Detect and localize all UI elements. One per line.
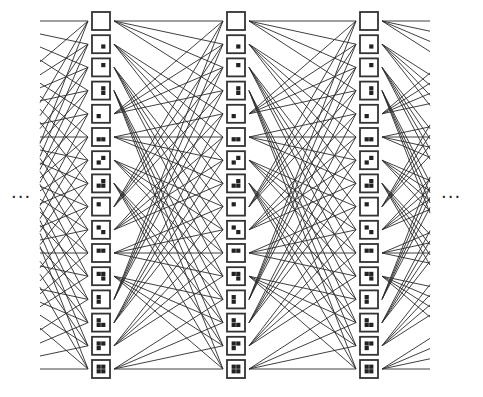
cell-top-right: [101, 156, 105, 160]
state-box-3: [227, 82, 245, 100]
state-box-frame: [360, 151, 378, 169]
state-box-frame: [360, 105, 378, 123]
cell-top-right: [236, 365, 240, 369]
transition-edge: [249, 114, 356, 323]
cell-bottom-right: [369, 276, 373, 280]
state-box-7: [227, 174, 245, 192]
state-box-10: [360, 244, 378, 262]
state-box-frame: [360, 221, 378, 239]
cell-top-right: [101, 179, 105, 183]
cell-bottom-left: [97, 160, 101, 164]
transition-edge: [382, 251, 430, 323]
cell-bottom-left: [365, 300, 369, 304]
transition-edge: [114, 299, 223, 369]
transition-edge: [249, 323, 356, 369]
transition-edge: [382, 145, 430, 206]
state-box-frame: [360, 314, 378, 332]
cell-bottom-left: [232, 300, 236, 304]
state-box-frame: [227, 128, 245, 146]
transition-edge: [249, 21, 356, 114]
state-box-8: [360, 198, 378, 216]
cell-bottom-right: [236, 323, 240, 327]
transition-edge: [249, 137, 356, 323]
cell-bottom-left: [232, 323, 236, 327]
cell-bottom-right: [101, 323, 105, 327]
transition-edge: [382, 21, 430, 41]
cell-bottom-right: [369, 230, 373, 234]
state-box-11: [227, 267, 245, 285]
cell-top-left: [97, 202, 101, 206]
state-box-5: [227, 128, 245, 146]
cell-top-left: [365, 341, 369, 345]
cell-top-left: [232, 225, 236, 229]
state-box-frame: [92, 151, 110, 169]
transition-edge: [114, 67, 223, 113]
state-box-10: [92, 244, 110, 262]
state-box-frame: [227, 151, 245, 169]
state-box-2: [227, 58, 245, 76]
transition-edge: [249, 91, 356, 207]
transition-edge: [382, 349, 430, 369]
state-box-frame: [92, 267, 110, 285]
transition-edge: [249, 21, 356, 44]
state-box-frame: [227, 314, 245, 332]
state-box-15: [92, 360, 110, 378]
state-box-13: [227, 314, 245, 332]
state-box-14: [360, 337, 378, 355]
cell-bottom-left: [97, 369, 101, 373]
transition-edge: [382, 83, 430, 114]
cell-bottom-left: [97, 184, 101, 188]
transition-edge: [114, 21, 223, 67]
cell-top-right: [369, 341, 373, 345]
transition-edge: [114, 114, 223, 323]
state-box-4: [227, 105, 245, 123]
cell-bottom-right: [236, 230, 240, 234]
state-box-frame: [92, 35, 110, 53]
cell-top-right: [236, 156, 240, 160]
transition-edge: [40, 21, 88, 62]
transition-diagram: [0, 0, 483, 397]
state-box-frame: [360, 267, 378, 285]
cell-top-right: [236, 249, 240, 253]
transition-edge: [114, 21, 223, 114]
state-box-frame: [360, 128, 378, 146]
cell-top-right: [101, 63, 105, 67]
state-box-frame: [227, 105, 245, 123]
cell-top-right: [101, 249, 105, 253]
transition-edge: [249, 21, 356, 207]
ellipsis-left: ···: [11, 188, 31, 206]
state-box-15: [360, 360, 378, 378]
cell-bottom-left: [365, 346, 369, 350]
state-box-13: [92, 314, 110, 332]
state-box-12: [227, 290, 245, 308]
transition-edge: [40, 207, 88, 227]
state-box-14: [227, 337, 245, 355]
cell-top-left: [97, 365, 101, 369]
state-box-frame: [92, 337, 110, 355]
cell-bottom-right: [369, 137, 373, 141]
transition-edge: [40, 328, 88, 369]
cell-top-right: [236, 272, 240, 276]
state-box-11: [360, 267, 378, 285]
state-box-frame: [360, 360, 378, 378]
state-box-9: [227, 221, 245, 239]
state-box-frame: [92, 174, 110, 192]
cell-top-left: [232, 295, 236, 299]
transition-edge: [114, 160, 223, 322]
transition-edge: [382, 21, 430, 52]
transition-edge: [249, 276, 356, 369]
state-box-8: [227, 198, 245, 216]
cell-bottom-right: [236, 91, 240, 95]
cell-top-left: [232, 318, 236, 322]
cell-top-left: [97, 225, 101, 229]
state-box-7: [92, 174, 110, 192]
transition-edge: [40, 163, 88, 183]
state-box-frame: [92, 360, 110, 378]
state-box-6: [227, 151, 245, 169]
cell-bottom-right: [369, 323, 373, 327]
state-box-frame: [360, 82, 378, 100]
state-box-1: [360, 35, 378, 53]
state-box-frame: [360, 337, 378, 355]
state-box-4: [360, 105, 378, 123]
state-box-2: [360, 58, 378, 76]
